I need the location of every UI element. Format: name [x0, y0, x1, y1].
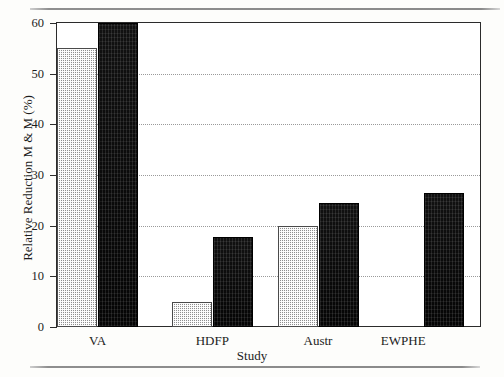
x-tick-label: VA — [48, 333, 148, 349]
plot-area — [57, 23, 480, 327]
bar-austr-dark — [319, 203, 359, 327]
x-axis-title: Study — [0, 348, 504, 364]
bar-hdfp-dark — [213, 237, 253, 327]
x-tick-label: EWPHE — [353, 333, 453, 349]
bar-va-dark — [98, 23, 138, 327]
bar-chart-figure: 0102030405060 VAHDFPAustrEWPHE Study Rel… — [0, 0, 504, 377]
y-tick-label: 0 — [18, 321, 44, 333]
y-tick-mark — [50, 327, 57, 328]
y-tick-label: 60 — [18, 17, 44, 29]
bar-hdfp-light — [172, 302, 212, 327]
bar-va-light — [57, 48, 97, 327]
page-rule-top — [30, 8, 500, 10]
page-rule-bottom — [30, 366, 480, 368]
bar-austr-light — [278, 226, 318, 327]
y-axis-title: Relative Reduction M & M (%) — [20, 58, 36, 298]
bar-ewphe-dark — [424, 193, 464, 327]
x-tick-label: HDFP — [162, 333, 262, 349]
